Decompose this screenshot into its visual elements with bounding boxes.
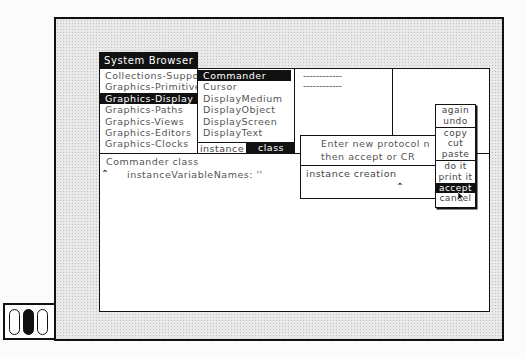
window-title-tab[interactable]: System Browser [99,52,198,69]
class-item[interactable]: DisplayScreen [198,116,294,127]
category-item[interactable]: Collections-Suppo [100,70,197,81]
prompt-message-line2: then accept or CR [321,151,415,162]
category-item[interactable]: Graphics-Primitive [100,81,197,92]
mouse-left-button-icon [9,309,20,335]
code-line: instanceVariableNames: '' [127,169,263,180]
class-item[interactable]: Cursor [198,81,294,92]
mouse-middle-button-icon [23,309,34,335]
class-item[interactable]: DisplayObject [198,104,294,115]
class-item-selected[interactable]: Commander [198,70,291,81]
code-line: Commander class [106,156,199,167]
menu-item-accept[interactable]: accept [436,183,475,194]
prompt-divider [301,165,439,166]
category-item[interactable]: Graphics-Clocks [100,138,197,149]
menu-item-print-it[interactable]: print it [436,172,475,183]
category-item[interactable]: Graphics-Editors [100,127,197,138]
category-item[interactable]: Graphics-Views [100,116,197,127]
protocol-item[interactable]: ------------ [295,81,392,91]
mouse-cursor-icon [458,192,466,202]
menu-item-undo[interactable]: undo [436,116,475,127]
menu-item-do-it[interactable]: do it [436,160,475,172]
mouse-button-indicator [3,303,56,340]
class-list-pane[interactable]: Commander Cursor DisplayMedium DisplayOb… [197,68,295,143]
mouse-right-button-icon [37,309,48,335]
category-item[interactable]: Graphics-Paths [100,104,197,115]
menu-item-cancel[interactable]: cancel [436,193,475,204]
category-list-pane[interactable]: Collections-Suppo Graphics-Primitive Gra… [99,68,198,154]
category-item-selected[interactable]: Graphics-Display [100,93,197,104]
class-item[interactable]: DisplayText [198,127,294,138]
prompt-message-line1: Enter new protocol n [321,138,430,149]
class-item[interactable]: DisplayMedium [198,93,294,104]
protocol-prompt-dialog: Enter new protocol n then accept or CR i… [300,135,440,199]
menu-item-copy[interactable]: copy [436,127,475,139]
protocol-name-input[interactable]: instance creation [306,168,397,179]
text-caret-icon: ‸ [397,176,403,185]
menu-item-again[interactable]: again [436,105,475,116]
menu-item-cut[interactable]: cut [436,138,475,149]
protocol-item[interactable]: ------------ [295,71,392,81]
menu-item-paste[interactable]: paste [436,149,475,160]
edit-popup-menu: again undo copy cut paste do it print it… [435,104,476,208]
